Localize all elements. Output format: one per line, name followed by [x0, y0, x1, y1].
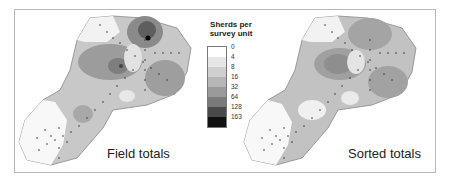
legend-swatch [207, 107, 227, 117]
map-field-totals: Field totals [15, 10, 210, 172]
legend-tick-label: 32 [231, 83, 238, 90]
map-caption-field-totals: Field totals [107, 146, 170, 161]
legend-tick-label: 16 [231, 73, 238, 80]
legend-swatch [207, 46, 227, 57]
legend-swatch [207, 57, 227, 67]
map-sorted-totals: Sorted totals [240, 10, 435, 172]
figure-frame: Field totals Sherds per survey unit 0481… [14, 9, 436, 173]
legend-swatch [207, 97, 227, 107]
legend-swatch [207, 67, 227, 77]
legend-tick-label: 0 [231, 43, 235, 50]
legend-tick-label: 4 [231, 53, 235, 60]
legend-tick-label: 8 [231, 63, 235, 70]
legend-swatch [207, 117, 227, 128]
legend-swatch [207, 87, 227, 97]
legend-swatch [207, 77, 227, 87]
map-caption-sorted-totals: Sorted totals [348, 146, 421, 161]
legend-tick-label: 64 [231, 93, 238, 100]
